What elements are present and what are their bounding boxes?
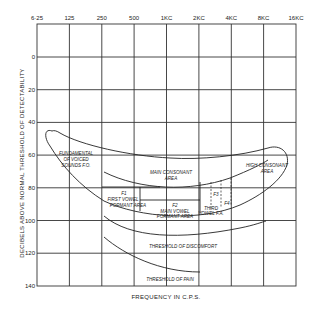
discomfort-label: THRESHOLD OF DISCOMFORT — [149, 244, 218, 249]
f3-tag: F3 — [213, 192, 219, 197]
y-tick-label: 20 — [28, 87, 35, 93]
f2-tag: F2 — [172, 203, 178, 208]
y-tick-labels: 0 20 40 60 80 100 120 140 — [25, 54, 36, 289]
fo-label-line1: FUNDAMENTAL — [59, 151, 94, 156]
f4-tag: F4 — [224, 201, 230, 206]
f1-tag: F1 — [121, 191, 127, 196]
x-tick-label: 6·25 — [31, 15, 44, 21]
f3-label-line2: VOWEL F.A. — [198, 211, 224, 216]
x-tick-label: 8KC — [258, 15, 270, 21]
x-tick-label: 250 — [97, 15, 108, 21]
fo-label-line2: OF VOICED — [63, 157, 89, 162]
y-axis-title: DECIBELS ABOVE NORMAL THRESHOLD OF DETEC… — [19, 68, 25, 257]
y-tick-label: 80 — [28, 185, 35, 191]
x-tick-label: 125 — [64, 15, 75, 21]
y-tick-label: 140 — [25, 283, 36, 289]
y-tick-label: 60 — [28, 152, 35, 158]
f1-label-line2: FORMANT AREA — [110, 203, 146, 208]
f2-label-line2: FORMANT AREA — [157, 214, 193, 219]
x-axis-title: FREQUENCY IN C.P.S. — [131, 294, 200, 300]
y-tick-label: 100 — [25, 218, 36, 224]
f1-label-line1: FIRST VOWEL — [107, 197, 139, 202]
y-tick-label: 0 — [32, 54, 36, 60]
high-consonant-label-line1: HIGH CONSONANT — [246, 163, 289, 168]
x-tick-label: 16KC — [288, 15, 304, 21]
fo-label-line3: SOUNDS F.O. — [61, 163, 90, 168]
high-consonant-label-line2: AREA — [260, 169, 274, 174]
threshold-of-pain-curve — [104, 237, 200, 272]
main-consonant-label-line1: MAIN CONSONANT — [150, 170, 193, 175]
x-tick-labels: 6·25 125 250 500 1KC 2KC 4KC 8KC 16KC — [31, 15, 304, 21]
x-tick-label: 500 — [129, 15, 140, 21]
main-consonant-label-line2: AREA — [164, 176, 178, 181]
y-tick-label: 120 — [25, 250, 36, 256]
x-tick-label: 4KC — [225, 15, 237, 21]
pain-label: THRESHOLD OF PAIN — [146, 277, 194, 282]
x-tick-label: 1KC — [161, 15, 173, 21]
y-tick-label: 40 — [28, 119, 35, 125]
speech-banana-chart: 6·25 125 250 500 1KC 2KC 4KC 8KC 16KC 0 … — [0, 0, 314, 311]
x-tick-label: 2KC — [193, 15, 205, 21]
